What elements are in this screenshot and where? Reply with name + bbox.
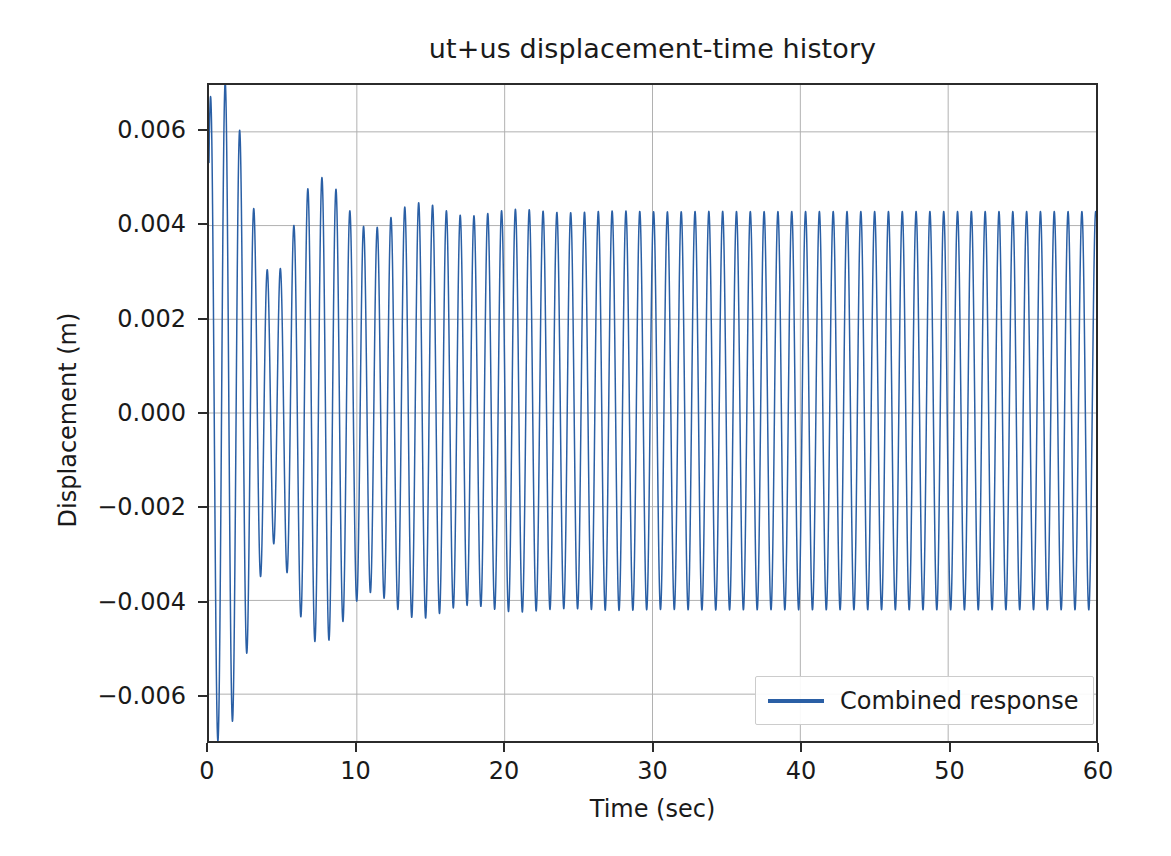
x-tick-mark: [206, 743, 208, 752]
x-tick-mark: [503, 743, 505, 752]
y-tick-mark: [198, 318, 207, 320]
y-tick-label: 0.006: [0, 116, 186, 144]
x-tick-mark: [1097, 743, 1099, 752]
plot-axes: [207, 83, 1098, 743]
legend-line-swatch: [768, 699, 824, 703]
x-tick-mark: [355, 743, 357, 752]
x-tick-label: 30: [637, 757, 668, 785]
x-tick-mark: [800, 743, 802, 752]
y-tick-label: −0.002: [0, 493, 186, 521]
y-tick-mark: [198, 129, 207, 131]
y-tick-label: 0.002: [0, 305, 186, 333]
x-tick-label: 40: [786, 757, 817, 785]
series-combined-response: [209, 85, 1096, 741]
x-tick-label: 10: [340, 757, 371, 785]
y-tick-label: −0.004: [0, 588, 186, 616]
y-tick-mark: [198, 412, 207, 414]
chart-figure: ut+us displacement-time history 0.0060.0…: [0, 0, 1171, 856]
y-tick-label: 0.000: [0, 399, 186, 427]
legend-label-combined-response: Combined response: [840, 687, 1079, 715]
y-tick-mark: [198, 223, 207, 225]
x-tick-label: 60: [1083, 757, 1114, 785]
chart-title: ut+us displacement-time history: [207, 33, 1098, 64]
y-tick-mark: [198, 601, 207, 603]
x-tick-mark: [949, 743, 951, 752]
x-axis-label: Time (sec): [207, 795, 1098, 823]
x-tick-mark: [652, 743, 654, 752]
y-tick-label: −0.006: [0, 682, 186, 710]
x-tick-label: 50: [934, 757, 965, 785]
y-tick-mark: [198, 695, 207, 697]
x-tick-label: 20: [489, 757, 520, 785]
y-axis-label: Displacement (m): [54, 90, 82, 750]
x-tick-label: 0: [199, 757, 214, 785]
y-tick-label: 0.004: [0, 210, 186, 238]
chart-legend: Combined response: [755, 676, 1094, 725]
y-tick-mark: [198, 506, 207, 508]
